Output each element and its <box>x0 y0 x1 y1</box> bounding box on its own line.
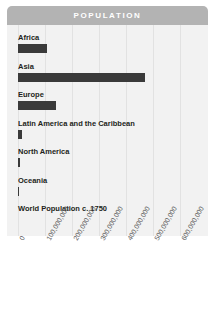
category-label: Latin America and the Caribbean <box>18 119 135 128</box>
population-chart-card: POPULATION AfricaAsiaEuropeLatin America… <box>7 6 208 236</box>
bar <box>18 130 22 139</box>
category-label: Asia <box>18 62 34 71</box>
bar <box>18 187 19 196</box>
bars-layer: AfricaAsiaEuropeLatin America and the Ca… <box>7 25 208 236</box>
chart-category-row: Latin America and the Caribbean <box>7 119 208 148</box>
chart-category-row: Oceania <box>7 176 208 205</box>
chart-category-row: Europe <box>7 90 208 119</box>
bar <box>18 101 56 110</box>
chart-category-row: Asia <box>7 62 208 91</box>
chart-title: POPULATION <box>74 11 142 20</box>
bar <box>18 44 47 53</box>
chart-header-banner: POPULATION <box>7 6 208 25</box>
plot-area: AfricaAsiaEuropeLatin America and the Ca… <box>7 25 208 236</box>
chart-category-row: Africa <box>7 33 208 62</box>
category-label: Europe <box>18 90 44 99</box>
bar <box>18 73 145 82</box>
x-axis-tick-label: 0 <box>18 235 26 242</box>
bar <box>18 158 20 167</box>
x-axis: 0100,000,000200,000,000300,000,000400,00… <box>7 236 208 326</box>
category-label: North America <box>18 147 69 156</box>
chart-category-row: North America <box>7 147 208 176</box>
category-label: Africa <box>18 33 39 42</box>
category-label: Oceania <box>18 176 47 185</box>
